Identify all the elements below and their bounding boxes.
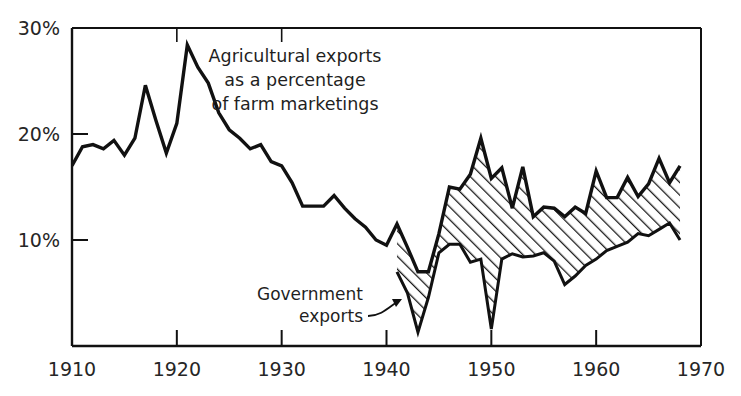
x-tick-label-1960: 1960 [572, 358, 620, 380]
x-tick-label-1940: 1940 [362, 358, 410, 380]
chart-title: Agricultural exports as a percentage of … [209, 46, 382, 114]
annotation-line-2: exports [299, 306, 363, 326]
x-tick-label-1920: 1920 [153, 358, 201, 380]
annotation-line-1: Government [257, 284, 363, 304]
chart-title-line-3: of farm marketings [211, 94, 378, 114]
y-tick-label-30: 30% [18, 17, 60, 39]
chart-title-line-1: Agricultural exports [209, 46, 382, 66]
x-tick-label-1930: 1930 [257, 358, 305, 380]
x-tick-label-1910: 1910 [48, 358, 96, 380]
y-tick-label-10: 10% [18, 229, 60, 251]
agricultural-exports-chart: 10%20%30% 1910192019301940195019601970 A… [0, 0, 741, 396]
chart-title-line-2: as a percentage [224, 70, 365, 90]
y-tick-label-20: 20% [18, 123, 60, 145]
x-tick-label-1970: 1970 [677, 358, 725, 380]
x-tick-label-1950: 1950 [467, 358, 515, 380]
chart-container: 10%20%30% 1910192019301940195019601970 A… [0, 0, 741, 396]
